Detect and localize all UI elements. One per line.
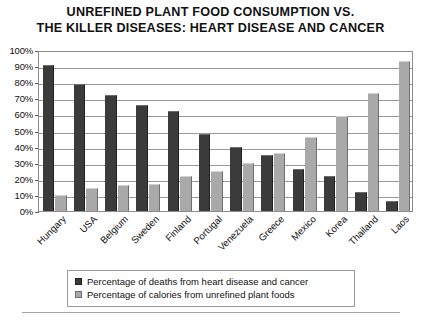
bar-group — [227, 52, 258, 211]
bar — [336, 116, 347, 211]
chart-legend: Percentage of deaths from heart disease … — [67, 270, 355, 307]
bar — [168, 111, 179, 211]
bar — [243, 163, 254, 211]
y-axis-tick-label: 20% — [15, 175, 33, 185]
bar — [293, 169, 304, 211]
x-axis-label: Korea — [324, 214, 349, 239]
y-axis-tick-label: 10% — [15, 191, 33, 201]
bar — [386, 201, 397, 211]
bar-group — [320, 52, 351, 211]
bar-group — [195, 52, 226, 211]
y-axis-tick-label: 0% — [20, 207, 33, 217]
bar-group — [164, 52, 195, 211]
legend-label: Percentage of deaths from heart disease … — [87, 276, 308, 287]
bars-layer — [39, 52, 412, 211]
bar — [355, 192, 366, 211]
y-axis-tick-label: 80% — [15, 78, 33, 88]
bar — [368, 93, 379, 211]
legend-swatch-dark-icon — [75, 278, 82, 285]
bar — [324, 176, 335, 211]
bottom-divider — [22, 312, 400, 313]
bar — [74, 84, 85, 211]
y-axis-tick-label: 70% — [15, 95, 33, 105]
y-axis-tick-label: 30% — [15, 159, 33, 169]
bar — [274, 153, 285, 211]
bar — [261, 155, 272, 211]
bar — [86, 188, 97, 211]
bar — [118, 185, 129, 211]
bar — [105, 95, 116, 211]
legend-item: Percentage of calories from unrefined pl… — [75, 288, 348, 301]
chart-title-line-1: UNREFINED PLANT FOOD CONSUMPTION VS. — [0, 4, 421, 20]
bar — [55, 195, 66, 211]
plot-area — [38, 51, 413, 212]
chart-figure: UNREFINED PLANT FOOD CONSUMPTION VS. THE… — [0, 0, 421, 321]
x-axis-label: Hungary — [35, 214, 68, 247]
bar — [199, 134, 210, 211]
chart-title-line-2: THE KILLER DISEASES: HEART DISEASE AND C… — [0, 20, 421, 36]
bar-group — [258, 52, 289, 211]
y-axis-tick-label: 90% — [15, 62, 33, 72]
bar-group — [383, 52, 414, 211]
bar-group — [39, 52, 70, 211]
y-axis-tick-label: 50% — [15, 127, 33, 137]
y-axis: 100%90%80%70%60%50%40%30%20%10%0% — [0, 51, 36, 212]
y-axis-tick-label: 100% — [10, 46, 34, 56]
y-axis-tick-label: 60% — [15, 111, 33, 121]
bar-group — [133, 52, 164, 211]
x-axis-label: Thailand — [347, 214, 380, 247]
x-axis-labels: HungaryUSABelgiumSwedenFinlandPortugalVe… — [38, 212, 413, 268]
legend-label: Percentage of calories from unrefined pl… — [87, 289, 295, 300]
bar — [211, 171, 222, 211]
bar — [230, 147, 241, 211]
bar-group — [70, 52, 101, 211]
bar-group — [352, 52, 383, 211]
x-axis-label: Laos — [390, 214, 412, 236]
legend-item: Percentage of deaths from heart disease … — [75, 275, 348, 288]
x-axis-label: Mexico — [289, 214, 318, 243]
bar-group — [289, 52, 320, 211]
x-axis-label: Greece — [257, 214, 286, 243]
chart-title: UNREFINED PLANT FOOD CONSUMPTION VS. THE… — [0, 4, 421, 36]
legend-swatch-light-icon — [75, 291, 82, 298]
bar — [43, 65, 54, 212]
y-axis-tick-label: 40% — [15, 143, 33, 153]
bar — [305, 137, 316, 211]
x-axis-label: USA — [78, 214, 99, 235]
x-axis-label: Finland — [163, 214, 192, 243]
bar-group — [102, 52, 133, 211]
x-axis-label: Belgium — [99, 214, 131, 246]
bar — [149, 184, 160, 211]
bar — [399, 61, 410, 211]
x-axis-label: Sweden — [130, 214, 162, 246]
bar — [136, 105, 147, 211]
bar — [180, 176, 191, 211]
